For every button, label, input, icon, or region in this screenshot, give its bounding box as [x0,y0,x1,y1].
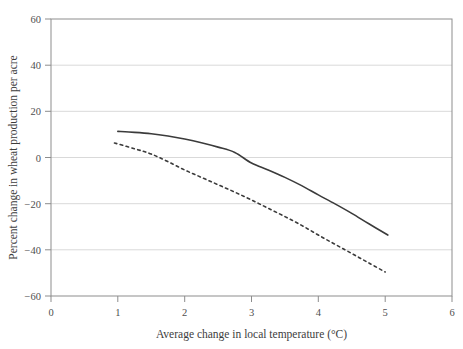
y-tick-labels: 60 40 20 0 −20 −40 −60 [25,14,41,302]
x-axis-title: Average change in local temperature (°C) [156,328,347,341]
y-tick-label: 0 [36,153,41,164]
x-tick-labels: 0 1 2 3 4 5 6 [48,307,454,318]
x-tick-label: 5 [383,307,388,318]
x-tick-label: 0 [48,307,53,318]
gridlines [51,65,452,250]
y-tick-label: −60 [25,291,41,302]
x-tick-label: 3 [249,307,254,318]
x-tick-label: 4 [316,307,322,318]
chart-svg: 60 40 20 0 −20 −40 −60 0 1 2 3 4 5 6 Ave… [0,0,463,349]
y-tick-label: 40 [31,60,42,71]
series-line-solid [118,131,388,235]
y-tickmarks [45,19,51,296]
y-tick-label: −40 [25,245,41,256]
x-tick-label: 2 [182,307,187,318]
y-axis-title: Percent change in wheat production per a… [7,55,20,259]
y-tick-label: 20 [31,106,42,117]
chart-figure: 60 40 20 0 −20 −40 −60 0 1 2 3 4 5 6 Ave… [0,0,463,349]
x-tick-label: 6 [449,307,454,318]
y-tick-label: −20 [25,199,41,210]
y-tick-label: 60 [31,14,42,25]
x-tickmarks [51,296,452,302]
x-tick-label: 1 [115,307,120,318]
